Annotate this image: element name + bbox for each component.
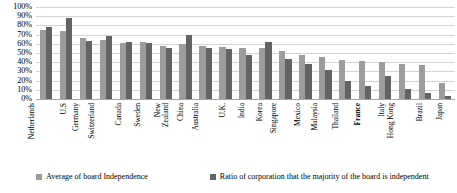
bar-series-2 xyxy=(106,36,112,99)
x-axis-category: India xyxy=(236,101,256,163)
bar-series-2 xyxy=(325,70,331,99)
bar-group xyxy=(36,7,56,99)
bar-group xyxy=(335,7,355,99)
bar-series-2 xyxy=(186,35,192,99)
chart-legend: Average of board Independence Ratio of c… xyxy=(0,172,457,188)
legend-label-series-1: Average of board Independence xyxy=(46,172,148,182)
bar-group xyxy=(136,7,156,99)
bar-group xyxy=(76,7,96,99)
bar-series-2 xyxy=(365,86,371,99)
x-axis-category: Netherlands xyxy=(36,101,56,163)
bar-chart: 100%90%80%70%60%50%40%30%20%10%0% Nether… xyxy=(0,0,457,193)
gridline xyxy=(36,99,455,100)
y-axis-tick-label: 90% xyxy=(17,12,32,20)
y-axis-tick-label: 60% xyxy=(17,40,32,48)
bar-series-2 xyxy=(425,93,431,99)
y-axis-tick-label: 30% xyxy=(17,67,32,75)
y-axis-tick-label: 50% xyxy=(17,49,32,57)
bar-series-2 xyxy=(146,43,152,99)
bar-group xyxy=(255,7,275,99)
bar-group xyxy=(415,7,435,99)
bar-series-2 xyxy=(405,89,411,99)
bar-series-2 xyxy=(126,42,132,99)
y-axis: 100%90%80%70%60%50%40%30%20%10%0% xyxy=(0,0,34,104)
y-axis-tick-label: 80% xyxy=(17,21,32,29)
x-axis-category-label: Malaysia xyxy=(312,103,320,130)
x-axis-category-label: Sweden xyxy=(134,103,142,127)
bar-group xyxy=(96,7,116,99)
legend-swatch-series-2-icon xyxy=(210,174,216,180)
x-axis-category-label: Japan xyxy=(437,103,445,120)
x-axis-category: Australia xyxy=(196,101,216,163)
legend-swatch-series-1-icon xyxy=(36,174,42,180)
y-axis-tick-label: 40% xyxy=(17,58,32,66)
bar-series-2 xyxy=(226,49,232,99)
bar-series-2 xyxy=(385,76,391,99)
y-axis-tick-label: 0% xyxy=(21,95,32,103)
bar-group xyxy=(435,7,455,99)
bar-group xyxy=(236,7,256,99)
y-axis-tick-label: 20% xyxy=(17,77,32,85)
x-axis-category: NewZealand xyxy=(156,101,176,163)
legend-item-series-1: Average of board Independence xyxy=(36,172,148,182)
bar-group xyxy=(275,7,295,99)
legend-label-series-2: Ratio of corporation that the majority o… xyxy=(220,172,429,182)
x-axis-category-label: Netherlands xyxy=(28,103,36,139)
bar-group xyxy=(156,7,176,99)
bar-series-2 xyxy=(166,48,172,99)
y-axis-tick-label: 10% xyxy=(17,86,32,94)
x-axis-category-label: Switzerland xyxy=(88,103,96,139)
bar-series-2 xyxy=(206,48,212,99)
bar-series-2 xyxy=(285,59,291,99)
x-axis-category-label: NewZealand xyxy=(154,103,170,127)
bar-series-2 xyxy=(345,81,351,99)
bar-group xyxy=(116,7,136,99)
bar-group xyxy=(176,7,196,99)
bar-series-2 xyxy=(305,64,311,99)
bar-series-2 xyxy=(66,18,72,99)
x-axis-category-label: China xyxy=(177,103,185,121)
x-axis-category-label: Hong Kong xyxy=(388,103,396,138)
plot-wrapper: 100%90%80%70%60%50%40%30%20%10%0% xyxy=(0,0,457,104)
x-axis-category-label: Singapore xyxy=(270,103,278,133)
x-axis-category-label: Brazil xyxy=(416,103,424,121)
x-axis-category-label: France xyxy=(354,103,362,125)
bar-series-2 xyxy=(86,41,92,99)
bar-group xyxy=(355,7,375,99)
bar-group xyxy=(375,7,395,99)
y-axis-tick-label: 70% xyxy=(17,31,32,39)
x-axis-category-label: U.S xyxy=(60,103,68,114)
x-axis-category-label: U.K. xyxy=(218,103,226,118)
x-axis-category: France xyxy=(355,101,375,163)
bar-group xyxy=(315,7,335,99)
bar-series-2 xyxy=(46,27,52,99)
x-axis-category-label: Canada xyxy=(115,103,123,125)
x-axis-category-label: Australia xyxy=(192,103,200,130)
x-axis-category: Japan xyxy=(435,101,455,163)
x-axis-category-label: Korea xyxy=(256,103,264,121)
bar-group xyxy=(196,7,216,99)
bar-series-2 xyxy=(246,55,252,99)
x-axis-category: U.K. xyxy=(216,101,236,163)
bar-group xyxy=(56,7,76,99)
bar-group xyxy=(295,7,315,99)
x-axis-category: Hong Kong xyxy=(395,101,415,163)
bar-series-2 xyxy=(445,96,451,99)
x-axis-category-label: India xyxy=(238,103,246,118)
legend-item-series-2: Ratio of corporation that the majority o… xyxy=(210,172,429,182)
x-axis-category-labels: NetherlandsU.SGermanySwitzerlandCanadaSw… xyxy=(36,101,455,163)
x-axis-category-label: Germany xyxy=(72,103,80,131)
x-axis-category-label: Thailand xyxy=(332,103,340,130)
bar-series-2 xyxy=(265,42,271,99)
x-axis-category-label: Mexico xyxy=(294,103,302,126)
y-axis-tick-label: 100% xyxy=(13,3,32,11)
x-axis-category-label: Italy xyxy=(378,103,386,117)
bars-layer xyxy=(36,7,455,99)
x-axis-category: Brazil xyxy=(415,101,435,163)
bar-group xyxy=(216,7,236,99)
plot-area xyxy=(36,7,455,99)
bar-group xyxy=(395,7,415,99)
